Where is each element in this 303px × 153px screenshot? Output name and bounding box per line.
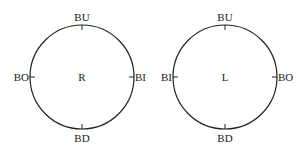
label-right: BI: [135, 71, 146, 83]
label-top: BU: [217, 11, 232, 23]
label-bottom: BD: [74, 132, 89, 144]
label-center: L: [222, 71, 229, 83]
prism-base-diagram: BU BD BO BI R BU BD BI BO L: [0, 0, 303, 153]
label-left: BO: [14, 71, 29, 83]
label-center: R: [78, 71, 86, 83]
label-top: BU: [74, 11, 89, 23]
label-left: BI: [161, 71, 172, 83]
label-bottom: BD: [217, 132, 232, 144]
diagram-right-eye: BU BD BO BI R: [14, 11, 147, 144]
label-right: BO: [278, 71, 293, 83]
diagram-left-eye: BU BD BI BO L: [161, 11, 293, 144]
